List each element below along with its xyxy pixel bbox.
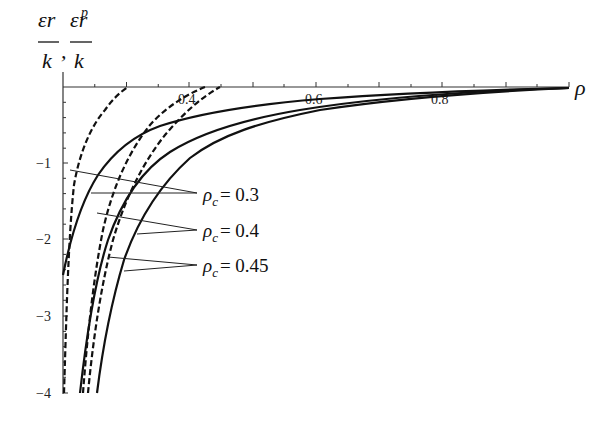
- y-tick-label: −2: [36, 232, 51, 247]
- legend: ρc= 0.3 ρc= 0.4 ρc= 0.45: [202, 184, 269, 280]
- y-title-denominator-1: k: [42, 48, 53, 73]
- chart-canvas: εr k , εr p k: [0, 0, 616, 427]
- y-tick-label: −3: [36, 309, 51, 324]
- curve-dashed-rc-0.4: [83, 87, 205, 393]
- axes: 0.4 0.6 0.8 −1 −2 −3 −4 ρ: [36, 72, 586, 401]
- y-title-superscript-p: p: [80, 5, 88, 20]
- curves: [63, 87, 569, 393]
- y-tick-label: −4: [36, 386, 51, 401]
- annotation-pointers: [70, 170, 197, 271]
- y-title-numerator-1: εr: [38, 7, 56, 32]
- x-axis-title: ρ: [574, 75, 586, 100]
- curve-solid-rc-0.45: [97, 88, 569, 393]
- y-tick-label: −1: [36, 156, 51, 171]
- legend-item-rc-0.45: ρc= 0.45: [202, 255, 269, 280]
- y-title-separator: ,: [61, 38, 67, 63]
- curve-solid-rc-0.4: [80, 88, 569, 393]
- curve-dashed-rc-0.3: [64, 87, 128, 393]
- legend-item-rc-0.3: ρc= 0.3: [202, 184, 259, 209]
- y-axis-title: εr k , εr p k: [38, 5, 92, 73]
- y-title-denominator-2: k: [74, 48, 85, 73]
- legend-item-rc-0.4: ρc= 0.4: [202, 220, 260, 245]
